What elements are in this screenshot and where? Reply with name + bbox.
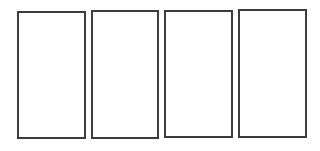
diagram-canvas	[0, 0, 320, 151]
panel-2	[91, 10, 159, 139]
panel-4	[238, 9, 307, 138]
panel-1	[17, 11, 86, 139]
panel-3	[164, 10, 233, 138]
